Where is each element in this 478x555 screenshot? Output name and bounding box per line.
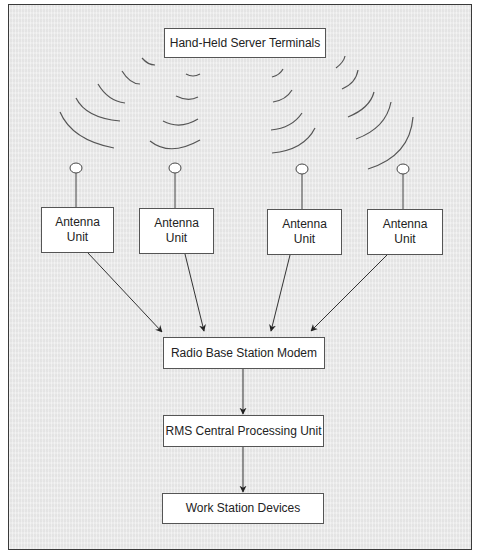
antenna-unit-box-1: Antenna Unit xyxy=(41,207,114,253)
work-station-devices-box: Work Station Devices xyxy=(162,493,324,524)
hand-held-terminals-box: Hand-Held Server Terminals xyxy=(164,28,326,58)
antenna-unit-line1: Antenna xyxy=(55,215,100,229)
antenna-unit-line2: Unit xyxy=(166,231,187,245)
antenna-unit-label-3: Antenna Unit xyxy=(282,217,327,247)
rms-cpu-box: RMS Central Processing Unit xyxy=(163,415,324,447)
antenna-unit-line2: Unit xyxy=(294,232,315,246)
rms-cpu-label: RMS Central Processing Unit xyxy=(165,424,321,439)
antenna-unit-line1: Antenna xyxy=(282,217,327,231)
antenna-unit-label-1: Antenna Unit xyxy=(55,215,100,245)
radio-waves-left-icon xyxy=(60,58,155,148)
radio-base-station-box: Radio Base Station Modem xyxy=(163,337,325,369)
antenna-unit-label-2: Antenna Unit xyxy=(154,216,199,246)
antenna-unit-line1: Antenna xyxy=(154,216,199,230)
antenna-unit-line2: Unit xyxy=(67,230,88,244)
radio-base-station-label: Radio Base Station Modem xyxy=(171,346,317,361)
antenna-unit-box-3: Antenna Unit xyxy=(267,209,342,255)
antenna-unit-box-2: Antenna Unit xyxy=(139,208,214,254)
antenna-masts xyxy=(76,173,403,209)
antenna-unit-line1: Antenna xyxy=(383,217,428,231)
radio-waves-center-left-icon xyxy=(150,74,200,149)
antenna-unit-label-4: Antenna Unit xyxy=(383,217,428,247)
antenna-heads xyxy=(70,163,409,174)
antenna-to-base-arrows xyxy=(88,253,387,332)
antenna-unit-line2: Unit xyxy=(394,232,415,246)
radio-waves-center-right-icon xyxy=(271,69,315,153)
hand-held-terminals-label: Hand-Held Server Terminals xyxy=(170,36,321,51)
antenna-unit-box-4: Antenna Unit xyxy=(367,209,443,255)
radio-waves-right-icon xyxy=(336,56,413,169)
diagram-connectors xyxy=(0,0,478,555)
work-station-devices-label: Work Station Devices xyxy=(186,501,301,516)
